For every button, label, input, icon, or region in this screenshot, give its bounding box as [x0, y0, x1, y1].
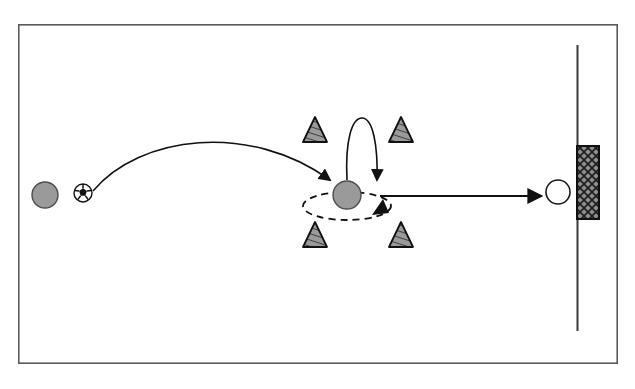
soccer-drill-diagram: Soccer Drill Diagram Lofted pass from a … [0, 0, 635, 389]
goalkeeper[interactable] [546, 180, 570, 204]
goal-net-target [577, 146, 599, 219]
server-player[interactable] [32, 182, 58, 208]
soccer-ball[interactable] [74, 184, 92, 202]
pitch-boundary [19, 25, 617, 363]
diagram-canvas [0, 0, 635, 389]
receiving-player[interactable] [333, 181, 361, 209]
